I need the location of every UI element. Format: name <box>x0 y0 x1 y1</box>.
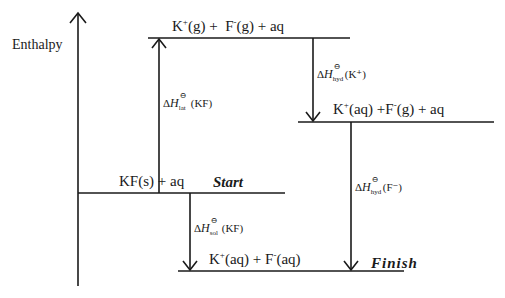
standard-state-icon: ⊖ <box>334 63 341 71</box>
label-hydration-f: ΔH⊖hyd(F⁻) <box>355 181 402 194</box>
standard-state-icon: ⊖ <box>211 217 218 225</box>
state: (aq) <box>276 251 300 267</box>
plus: + <box>209 18 217 34</box>
solvent: aq <box>270 18 284 34</box>
species: F <box>385 101 393 117</box>
state: (aq) <box>225 251 249 267</box>
solvent: aq <box>430 101 444 117</box>
plus: + <box>158 173 166 189</box>
standard-state-icon: ⊖ <box>180 92 187 100</box>
species: K <box>172 18 183 34</box>
argument: (F⁻) <box>383 181 402 193</box>
start-tag: Start <box>213 175 243 190</box>
label-solution-enthalpy: ΔH⊖sol(KF) <box>194 222 243 235</box>
enthalpy-symbol: H <box>362 180 371 194</box>
label-lattice-enthalpy: ΔH⊖lat(KF) <box>163 97 212 110</box>
subscript: hyd <box>371 189 382 196</box>
enthalpy-symbol: H <box>324 67 333 81</box>
plus: + <box>258 18 266 34</box>
state: (g) <box>236 18 254 34</box>
enthalpy-symbol: H <box>170 96 179 110</box>
axis-label: Enthalpy <box>12 38 63 52</box>
level-top-label: K+(g) + F-(g) + aq <box>172 19 284 34</box>
argument: (KF) <box>191 97 212 109</box>
subscript: sol <box>210 230 218 237</box>
plus: + <box>418 101 426 117</box>
plus: + <box>253 251 261 267</box>
state: (g) <box>188 18 206 34</box>
standard-state-icon: ⊖ <box>372 176 379 184</box>
finish-tag: Finish <box>371 256 418 271</box>
enthalpy-symbol: H <box>201 221 210 235</box>
level-start-label: KF(s) + aq <box>119 174 184 189</box>
level-middle-label: K+(aq) +F-(g) + aq <box>333 102 444 117</box>
solvent: aq <box>170 173 184 189</box>
argument: (KF) <box>222 222 243 234</box>
species: KF(s) <box>119 173 154 189</box>
state: (g) <box>397 101 415 117</box>
subscript: lat <box>179 105 186 112</box>
subscript: hyd <box>333 76 344 83</box>
species: K <box>209 251 220 267</box>
argument: (K⁺) <box>345 68 366 80</box>
label-hydration-k: ΔH⊖hyd(K⁺) <box>317 68 366 81</box>
state: (aq) <box>349 101 373 117</box>
species: K <box>333 101 344 117</box>
level-finish-label: K+(aq) + F-(aq) <box>209 252 301 267</box>
